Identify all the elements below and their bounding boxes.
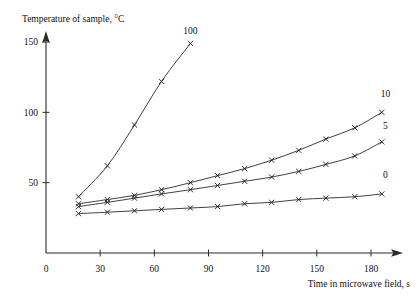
series-line-10 xyxy=(79,112,382,203)
data-point-marker-x-icon xyxy=(188,41,193,46)
series-label-100: 100 xyxy=(183,26,198,36)
data-point-marker-x-icon xyxy=(352,125,357,130)
data-series-layer xyxy=(76,41,385,216)
data-point-marker-x-icon xyxy=(269,158,274,163)
x-axis-title: Time in microwave field, s xyxy=(308,279,411,289)
series-label-0: 0 xyxy=(383,170,388,180)
x-tick-label: 120 xyxy=(256,264,271,274)
data-point-marker-x-icon xyxy=(379,139,384,144)
data-point-marker-x-icon xyxy=(105,163,110,168)
y-axis-title: Temperature of sample, °C xyxy=(22,14,124,24)
x-tick: 0 xyxy=(44,264,49,274)
chart-figure: Temperature of sample, °C Time in microw… xyxy=(0,0,419,301)
series-10 xyxy=(76,110,385,207)
x-tick-label: 30 xyxy=(95,264,105,274)
axis-lines xyxy=(42,31,403,257)
line-chart: Temperature of sample, °C Time in microw… xyxy=(0,0,419,301)
series-100 xyxy=(76,41,193,200)
x-tick-label: 180 xyxy=(364,264,379,274)
series-label-text-5: 5 xyxy=(383,121,388,131)
data-point-marker-x-icon xyxy=(159,79,164,84)
series-labels-layer: 1001050 xyxy=(183,26,390,181)
series-label-text-0: 0 xyxy=(383,170,388,180)
y-tick-label: 50 xyxy=(29,178,39,188)
data-point-marker-x-icon xyxy=(215,173,220,178)
x-tick-label: 0 xyxy=(44,264,49,274)
data-point-marker-x-icon xyxy=(242,166,247,171)
series-0 xyxy=(76,191,385,216)
data-point-marker-x-icon xyxy=(296,148,301,153)
data-point-marker-x-icon xyxy=(323,162,328,167)
x-tick-label: 60 xyxy=(150,264,160,274)
series-label-5: 5 xyxy=(383,121,388,131)
series-label-text-100: 100 xyxy=(183,26,198,36)
data-point-marker-x-icon xyxy=(76,194,81,199)
data-point-marker-x-icon xyxy=(132,122,137,127)
x-tick-label: 90 xyxy=(204,264,214,274)
series-label-text-10: 10 xyxy=(381,89,391,99)
x-tick-label: 150 xyxy=(310,264,325,274)
data-point-marker-x-icon xyxy=(323,136,328,141)
series-5 xyxy=(76,139,385,209)
data-point-marker-x-icon xyxy=(379,110,384,115)
y-tick-label: 100 xyxy=(24,108,39,118)
series-label-10: 10 xyxy=(381,89,391,99)
y-tick-label: 150 xyxy=(24,37,39,47)
series-line-100 xyxy=(79,43,191,196)
data-point-marker-x-icon xyxy=(352,153,357,158)
